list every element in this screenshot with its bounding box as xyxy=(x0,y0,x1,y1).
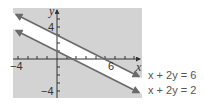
x-tick-label-6: 6 xyxy=(108,60,114,72)
legend-line-x-plus-2y-eq-2: x + 2y = 2 xyxy=(148,84,196,96)
y-axis-label: y xyxy=(48,4,55,18)
x-axis-label: x xyxy=(135,60,142,74)
legend-line-x-plus-2y-eq-6: x + 2y = 6 xyxy=(148,69,196,81)
y-tick-label-neg4: −4 xyxy=(41,85,54,97)
x-tick-label-neg4: −4 xyxy=(10,60,23,72)
y-tick-label-4: 4 xyxy=(48,21,54,33)
